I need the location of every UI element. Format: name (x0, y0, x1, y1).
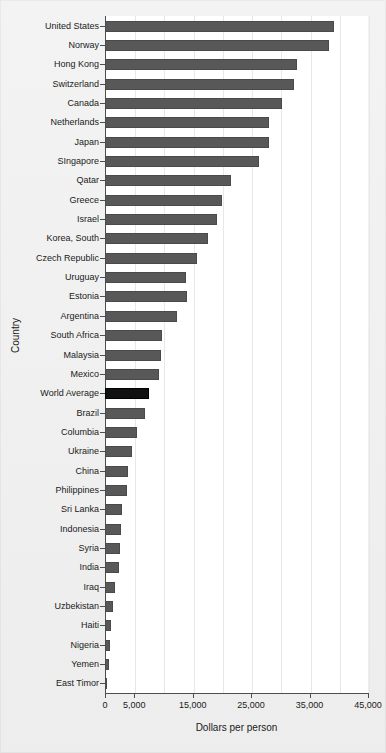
bar (105, 640, 110, 651)
y-axis-tick-label: Malaysia (63, 348, 99, 362)
x-axis-tick-label: 5,000 (123, 700, 146, 710)
y-axis-tick-label: Korea, South (46, 231, 99, 245)
y-axis-tick-label: Switzerland (52, 77, 99, 91)
y-axis-tick-label: India (79, 560, 99, 574)
x-axis-tick (368, 693, 369, 698)
bar (105, 446, 132, 457)
y-axis-tick-label: Ukraine (68, 444, 99, 458)
bar (105, 330, 162, 341)
table-row (105, 599, 368, 613)
y-axis-tick-label: South Africa (50, 328, 99, 342)
table-row (105, 193, 368, 207)
bar (105, 601, 113, 612)
table-row (105, 541, 368, 555)
bar (105, 195, 222, 206)
table-row (105, 464, 368, 478)
bar (105, 408, 145, 419)
bar (105, 59, 297, 70)
table-row (105, 154, 368, 168)
bar (105, 620, 111, 631)
table-row (105, 657, 368, 671)
bar (105, 427, 137, 438)
chart-figure: United StatesNorwayHong KongSwitzerlandC… (0, 0, 386, 753)
bar (105, 678, 107, 689)
y-axis-tick-label: Philippines (55, 483, 99, 497)
table-row (105, 618, 368, 632)
y-axis-tick-label: East Timor (56, 676, 99, 690)
bar (105, 350, 161, 361)
y-axis-tick-label: Uzbekistan (54, 599, 99, 613)
y-axis-tick-label: Estonia (69, 289, 99, 303)
table-row (105, 386, 368, 400)
y-axis-tick-label: Norway (68, 38, 99, 52)
bar (105, 369, 159, 380)
y-axis-tick-label: United States (45, 19, 99, 33)
x-axis-tick-label: 35,000 (296, 700, 324, 710)
bar (105, 21, 334, 32)
x-axis-tick (310, 693, 311, 698)
table-row (105, 406, 368, 420)
y-axis-title: Country (10, 301, 21, 371)
y-axis-tick-label: Israel (77, 212, 99, 226)
bar (105, 253, 197, 264)
y-axis-tick-label: Greece (69, 193, 99, 207)
x-axis-tick (105, 693, 106, 698)
y-axis-tick-label: Haiti (81, 618, 99, 632)
bar (105, 485, 127, 496)
table-row (105, 638, 368, 652)
table-row (105, 231, 368, 245)
x-axis-tick (251, 693, 252, 698)
table-row (105, 19, 368, 33)
y-axis-tick-label: World Average (40, 386, 99, 400)
y-axis-tick-label: SIngapore (57, 154, 99, 168)
y-axis-tick-label: Qatar (76, 173, 99, 187)
bar (105, 291, 187, 302)
bar (105, 40, 329, 51)
y-axis-tick-label: Sri Lanka (61, 502, 99, 516)
bar (105, 117, 269, 128)
table-row (105, 251, 368, 265)
table-row (105, 502, 368, 516)
y-axis-tick-label: Czech Republic (36, 251, 99, 265)
bar (105, 137, 269, 148)
table-row (105, 135, 368, 149)
bar (105, 311, 177, 322)
y-axis-tick-label: Japan (74, 135, 99, 149)
table-row (105, 367, 368, 381)
bar (105, 272, 186, 283)
x-axis-title: Dollars per person (105, 722, 368, 733)
table-row (105, 289, 368, 303)
table-row (105, 580, 368, 594)
y-axis-tick-label: Netherlands (50, 115, 99, 129)
bar (105, 79, 294, 90)
y-axis-tick-label: Indonesia (60, 522, 99, 536)
table-row (105, 270, 368, 284)
table-row (105, 444, 368, 458)
bar (105, 233, 208, 244)
y-axis-tick-label: Syria (78, 541, 99, 555)
bar (105, 504, 122, 515)
y-axis-tick-label: China (75, 464, 99, 478)
bar-highlight (105, 388, 149, 399)
table-row (105, 348, 368, 362)
table-row (105, 425, 368, 439)
table-row (105, 173, 368, 187)
y-axis-tick-label: Brazil (76, 406, 99, 420)
bar (105, 659, 109, 670)
y-axis-tick-label: Argentina (60, 309, 99, 323)
x-axis-tick (193, 693, 194, 698)
bar (105, 175, 231, 186)
x-axis-tick-label: 15,000 (179, 700, 207, 710)
x-axis-tick-label: 45,000 (354, 700, 382, 710)
table-row (105, 96, 368, 110)
table-row (105, 38, 368, 52)
x-axis-tick-label: 25,000 (237, 700, 265, 710)
bar (105, 214, 217, 225)
gridline (369, 16, 370, 693)
y-axis-tick-label: Yemen (71, 657, 99, 671)
x-axis-tick (134, 693, 135, 698)
bar (105, 466, 128, 477)
bar (105, 98, 282, 109)
bar (105, 156, 259, 167)
bar (105, 524, 121, 535)
